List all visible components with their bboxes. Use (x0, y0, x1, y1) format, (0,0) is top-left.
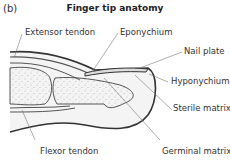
middle-phalanx (10, 67, 52, 105)
label-eponychium: Eponychium (120, 27, 172, 37)
label-germinal-matrix: Germinal matrix (162, 146, 230, 156)
label-sterile-matrix: Sterile matrix (173, 103, 230, 113)
label-extensor-tendon: Extensor tendon (25, 27, 95, 37)
label-nail-plate: Nail plate (184, 46, 225, 56)
label-hyponychium: Hyponychium (171, 76, 230, 86)
label-flexor-tendon: Flexor tendon (40, 146, 98, 156)
